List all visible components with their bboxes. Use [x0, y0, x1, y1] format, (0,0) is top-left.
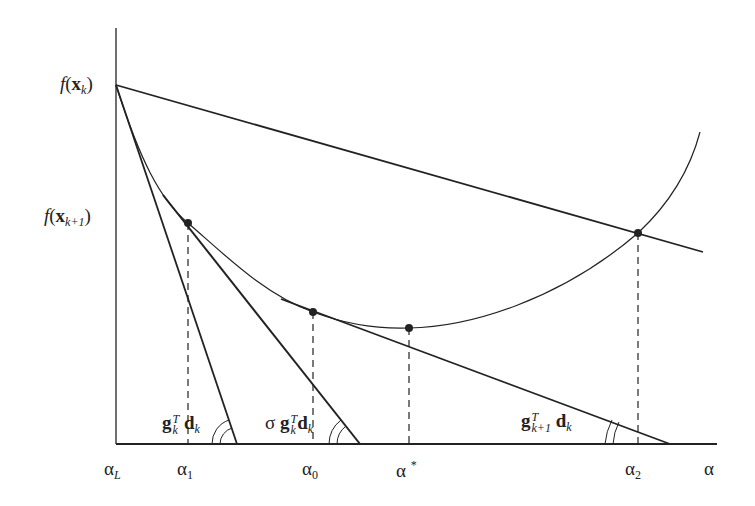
new-slope-line	[281, 299, 670, 444]
point-alpha1	[184, 219, 192, 227]
function-curve	[116, 85, 700, 328]
label-alpha: α	[704, 458, 714, 480]
chord-line	[116, 85, 703, 252]
label-alpha-L: αL	[104, 458, 121, 483]
label-gk-dk: gTk dk	[162, 412, 200, 437]
point-alpha0	[309, 308, 317, 316]
label-alpha-star: α *	[396, 458, 417, 482]
label-f-xk1: f(xk+1)	[44, 205, 91, 230]
label-alpha-1: α1	[177, 458, 193, 483]
line-search-diagram	[0, 0, 755, 506]
point-alphastar	[405, 324, 413, 332]
point-alpha2	[634, 229, 642, 237]
label-alpha-2: α2	[625, 458, 641, 483]
label-f-xk: f(xk)	[60, 73, 93, 98]
angle-arc-initial	[212, 420, 232, 444]
sigma-slope-line	[163, 195, 360, 444]
label-gk1-dk: gTk+1 dk	[521, 410, 572, 435]
label-alpha-0: α0	[302, 458, 318, 483]
label-sigma-gk-dk: σ gTkdk	[265, 412, 313, 437]
